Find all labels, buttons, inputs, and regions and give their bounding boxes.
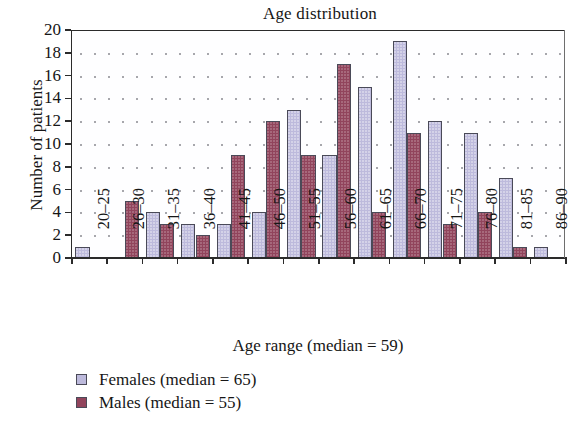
gridline [72, 98, 565, 100]
y-axis-tick-label: 14 [21, 89, 61, 106]
y-axis-tick [65, 143, 71, 145]
gridline [72, 76, 565, 78]
x-axis-tick [459, 257, 461, 264]
x-axis-tick [353, 257, 355, 264]
bar-females [393, 41, 407, 258]
x-axis-tick-label: 61–65 [378, 188, 394, 268]
y-axis-tick [65, 120, 71, 122]
y-axis-tick [65, 166, 71, 168]
bar-females [322, 155, 336, 258]
y-axis-tick [65, 98, 71, 100]
x-axis-tick [424, 257, 426, 264]
x-axis-tick-label: 86–90 [554, 188, 570, 268]
y-axis-tick-label: 0 [21, 249, 61, 266]
x-axis-tick [283, 257, 285, 264]
y-axis-tick-label: 16 [21, 67, 61, 84]
chart-legend: Females (median = 65)Males (median = 55) [76, 368, 256, 414]
legend-label: Males (median = 55) [99, 393, 241, 413]
x-axis-tick [389, 257, 391, 264]
x-axis-title: Age range (median = 59) [71, 336, 565, 356]
x-axis-tick [318, 257, 320, 264]
x-axis-tick [247, 257, 249, 264]
y-axis-tick [65, 212, 71, 214]
x-axis-tick-label: 31–35 [166, 188, 182, 268]
legend-entry-females: Females (median = 65) [76, 368, 256, 391]
x-axis-tick-label: 46–50 [272, 188, 288, 268]
bar-females [358, 87, 372, 258]
y-axis-tick-label: 18 [21, 44, 61, 61]
x-axis-tick-label: 71–75 [449, 188, 465, 268]
x-axis-tick [177, 257, 179, 264]
y-axis-tick-label: 20 [21, 21, 61, 38]
x-axis-tick-label: 51–55 [307, 188, 323, 268]
legend-swatch-icon [76, 374, 87, 385]
legend-entry-males: Males (median = 55) [76, 391, 256, 414]
x-axis-tick [212, 257, 214, 264]
gridline [72, 121, 565, 123]
x-axis-tick-label: 56–60 [343, 188, 359, 268]
y-axis-tick [65, 29, 71, 31]
y-axis-tick-label: 6 [21, 181, 61, 198]
x-axis-tick [106, 257, 108, 264]
x-axis-tick [142, 257, 144, 264]
age-distribution-chart: Age distribution Number of patients 0246… [0, 0, 575, 424]
bar-females [146, 212, 160, 258]
chart-title: Age distribution [70, 4, 570, 24]
x-axis-tick-label: 66–70 [413, 188, 429, 268]
bar-females [287, 110, 301, 258]
x-axis-tick-label: 41–45 [237, 188, 253, 268]
y-axis-tick-label: 8 [21, 158, 61, 175]
legend-label: Females (median = 65) [99, 370, 256, 390]
y-axis-tick-label: 12 [21, 112, 61, 129]
y-axis-tick [65, 234, 71, 236]
y-axis-tick-label: 2 [21, 226, 61, 243]
y-axis-tick [65, 52, 71, 54]
x-axis-tick-label: 26–30 [131, 188, 147, 268]
gridline [72, 53, 565, 55]
x-axis-tick [71, 257, 73, 264]
x-axis-tick [530, 257, 532, 264]
x-axis-tick [494, 257, 496, 264]
gridline [72, 144, 565, 146]
x-axis-tick-label: 36–40 [202, 188, 218, 268]
x-axis-tick [565, 257, 567, 264]
y-axis-tick [65, 189, 71, 191]
bar-females [181, 224, 195, 258]
x-axis-tick-label: 20–25 [96, 188, 112, 268]
y-axis-tick [65, 75, 71, 77]
legend-swatch-icon [76, 397, 87, 408]
y-axis-tick-label: 10 [21, 135, 61, 152]
bar-females [428, 121, 442, 258]
y-axis-tick-label: 4 [21, 203, 61, 220]
gridline [72, 167, 565, 169]
x-axis-tick-label: 76–80 [484, 188, 500, 268]
x-axis-tick-label: 81–85 [519, 188, 535, 268]
